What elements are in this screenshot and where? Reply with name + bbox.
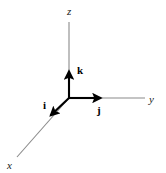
y-axis-label: y [149,94,154,105]
axes-drawing [0,0,166,173]
x-axis-label: x [7,160,12,171]
j-vector-label: j [97,105,101,116]
i-vector-arrow [51,98,70,116]
k-vector-label: k [77,65,83,76]
coordinate-axes-figure: z y x k j i [0,0,166,173]
z-axis-label: z [67,6,71,17]
i-vector-label: i [43,100,46,111]
